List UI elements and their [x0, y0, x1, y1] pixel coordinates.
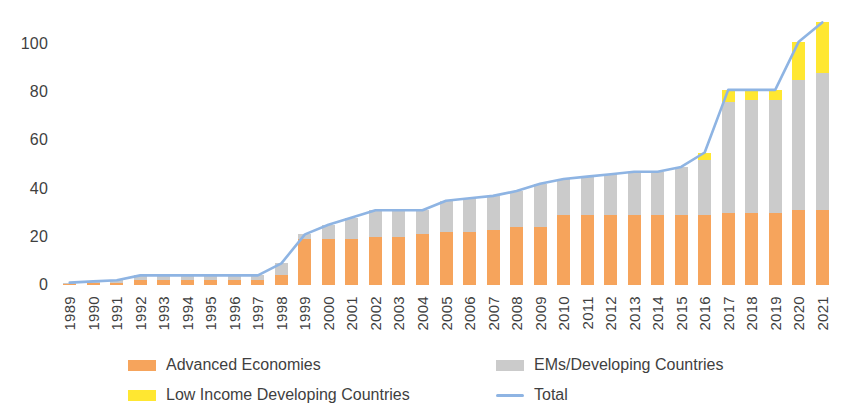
bar-column[interactable]	[816, 22, 829, 285]
bar-segment[interactable]	[628, 215, 641, 285]
bar-segment[interactable]	[369, 237, 382, 285]
bar-segment[interactable]	[604, 174, 617, 215]
bar-column[interactable]	[416, 210, 429, 285]
bar-segment[interactable]	[534, 184, 547, 227]
bar-segment[interactable]	[675, 215, 688, 285]
bar-segment[interactable]	[440, 232, 453, 285]
bar-segment[interactable]	[651, 172, 664, 215]
bar-segment[interactable]	[228, 280, 241, 285]
bar-column[interactable]	[275, 263, 288, 285]
bar-column[interactable]	[204, 275, 217, 285]
bar-column[interactable]	[792, 42, 805, 285]
bar-segment[interactable]	[745, 100, 758, 213]
bar-segment[interactable]	[745, 213, 758, 285]
bar-segment[interactable]	[722, 102, 735, 213]
bar-segment[interactable]	[698, 153, 711, 160]
bar-column[interactable]	[181, 275, 194, 285]
bar-segment[interactable]	[581, 177, 594, 216]
bar-segment[interactable]	[392, 210, 405, 237]
bar-segment[interactable]	[792, 80, 805, 210]
bar-column[interactable]	[369, 210, 382, 285]
legend-item-total[interactable]: Total	[496, 386, 568, 404]
bar-segment[interactable]	[675, 167, 688, 215]
bar-segment[interactable]	[557, 179, 570, 215]
bar-segment[interactable]	[510, 191, 523, 227]
bar-segment[interactable]	[87, 283, 100, 285]
bar-column[interactable]	[581, 177, 594, 285]
bar-segment[interactable]	[322, 239, 335, 285]
bar-segment[interactable]	[628, 172, 641, 215]
bar-segment[interactable]	[369, 210, 382, 237]
bar-segment[interactable]	[745, 90, 758, 100]
bar-segment[interactable]	[816, 22, 829, 73]
bar-column[interactable]	[463, 198, 476, 285]
bar-column[interactable]	[628, 172, 641, 285]
bar-column[interactable]	[698, 153, 711, 285]
bar-segment[interactable]	[416, 210, 429, 234]
bar-segment[interactable]	[722, 90, 735, 102]
bar-column[interactable]	[63, 283, 76, 285]
bar-column[interactable]	[134, 275, 147, 285]
bar-segment[interactable]	[181, 280, 194, 285]
bar-segment[interactable]	[792, 42, 805, 81]
bar-column[interactable]	[745, 90, 758, 285]
bar-segment[interactable]	[440, 201, 453, 232]
bar-column[interactable]	[345, 218, 358, 285]
bar-column[interactable]	[110, 280, 123, 285]
bar-segment[interactable]	[769, 213, 782, 285]
bar-segment[interactable]	[534, 227, 547, 285]
bar-segment[interactable]	[722, 213, 735, 285]
bar-segment[interactable]	[510, 227, 523, 285]
bar-column[interactable]	[322, 225, 335, 285]
bar-segment[interactable]	[345, 218, 358, 240]
bar-column[interactable]	[228, 275, 241, 285]
x-axis-tick-label: 2004	[414, 296, 431, 331]
bar-column[interactable]	[557, 179, 570, 285]
bar-segment[interactable]	[275, 263, 288, 275]
bar-segment[interactable]	[298, 239, 311, 285]
bar-segment[interactable]	[110, 283, 123, 285]
bar-segment[interactable]	[487, 196, 500, 230]
bar-segment[interactable]	[204, 280, 217, 285]
bar-segment[interactable]	[275, 275, 288, 285]
bar-segment[interactable]	[251, 280, 264, 285]
bar-column[interactable]	[510, 191, 523, 285]
legend-item-ems-developing-countries[interactable]: EMs/Developing Countries	[496, 356, 723, 374]
bar-column[interactable]	[251, 275, 264, 285]
bar-segment[interactable]	[651, 215, 664, 285]
bar-segment[interactable]	[557, 215, 570, 285]
bar-column[interactable]	[651, 172, 664, 285]
bar-segment[interactable]	[157, 280, 170, 285]
bar-column[interactable]	[392, 210, 405, 285]
bar-column[interactable]	[87, 281, 100, 285]
bar-segment[interactable]	[604, 215, 617, 285]
bar-segment[interactable]	[769, 90, 782, 100]
bar-segment[interactable]	[487, 230, 500, 285]
bar-column[interactable]	[440, 201, 453, 285]
bar-column[interactable]	[298, 234, 311, 285]
bar-column[interactable]	[157, 275, 170, 285]
bar-segment[interactable]	[816, 73, 829, 210]
bar-segment[interactable]	[581, 215, 594, 285]
bar-column[interactable]	[675, 167, 688, 285]
bar-segment[interactable]	[792, 210, 805, 285]
bar-segment[interactable]	[698, 160, 711, 215]
bar-segment[interactable]	[463, 198, 476, 232]
bar-column[interactable]	[487, 196, 500, 285]
bar-segment[interactable]	[816, 210, 829, 285]
bar-segment[interactable]	[416, 234, 429, 285]
bar-column[interactable]	[534, 184, 547, 285]
legend-item-advanced-economies[interactable]: Advanced Economies	[128, 356, 321, 374]
bar-column[interactable]	[604, 174, 617, 285]
bar-column[interactable]	[722, 90, 735, 285]
bar-segment[interactable]	[769, 100, 782, 213]
bar-segment[interactable]	[63, 284, 76, 285]
bar-segment[interactable]	[698, 215, 711, 285]
bar-segment[interactable]	[463, 232, 476, 285]
bar-column[interactable]	[769, 90, 782, 285]
bar-segment[interactable]	[392, 237, 405, 285]
legend-item-low-income-developing-countries[interactable]: Low Income Developing Countries	[128, 386, 410, 404]
bar-segment[interactable]	[134, 280, 147, 285]
bar-segment[interactable]	[345, 239, 358, 285]
bar-segment[interactable]	[322, 225, 335, 239]
